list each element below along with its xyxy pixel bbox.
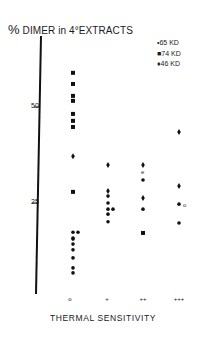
data-point-circle (106, 207, 110, 211)
y-axis-line (36, 36, 41, 294)
data-points: eo (71, 71, 187, 275)
data-point-circle (71, 256, 75, 260)
data-point-square (71, 82, 75, 86)
data-point-circle (71, 271, 75, 275)
scatter-chart: % DIMER in 4°EXTRACTS •65 KD ■74 KD ♦46 … (0, 0, 200, 339)
data-point-diamond (106, 162, 110, 168)
data-point-circle (106, 212, 110, 216)
data-point-diamond (106, 188, 110, 194)
data-point-square (71, 125, 75, 129)
data-point-diamond (177, 129, 181, 135)
data-point-square (71, 71, 75, 75)
plot-area: eo (0, 0, 200, 339)
data-point-circle (71, 266, 75, 270)
data-point-square (71, 99, 75, 103)
data-point-diamond (177, 183, 181, 189)
data-point-diamond (141, 195, 145, 201)
data-point-square (141, 231, 145, 235)
point-annotation: o (183, 202, 187, 208)
data-point-circle (71, 230, 75, 234)
data-point-circle (177, 221, 181, 225)
data-point-circle (141, 178, 145, 182)
data-point-circle (177, 202, 181, 206)
data-point-circle (106, 220, 110, 224)
data-point-circle (71, 237, 75, 241)
data-point-square (71, 94, 75, 98)
point-annotation: e (141, 169, 145, 175)
data-point-circle (71, 242, 75, 246)
data-point-square (71, 112, 75, 116)
data-point-circle (71, 248, 75, 252)
data-point-square (71, 190, 75, 194)
data-point-diamond (141, 162, 145, 168)
data-point-circle (106, 201, 110, 205)
data-point-circle (141, 207, 145, 211)
data-point-circle (76, 230, 80, 234)
data-point-square (71, 119, 75, 123)
data-point-diamond (71, 153, 75, 159)
data-point-circle (111, 207, 115, 211)
data-point-circle (106, 194, 110, 198)
